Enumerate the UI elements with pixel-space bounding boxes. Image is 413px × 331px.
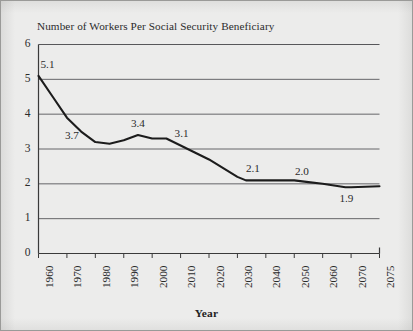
x-tick-label-2075: 2075 xyxy=(384,265,396,287)
x-tick-label-2050: 2050 xyxy=(299,265,311,287)
y-tick-label-5: 5 xyxy=(17,72,31,84)
data-label-3-7: 3.7 xyxy=(65,129,79,141)
data-label-2-0: 2.0 xyxy=(295,165,309,177)
data-label-3-1: 3.1 xyxy=(175,127,189,139)
x-tick-label-2000: 2000 xyxy=(157,265,169,287)
x-tick-label-1970: 1970 xyxy=(71,265,83,287)
y-tick-label-4: 4 xyxy=(17,107,31,119)
y-tick-label-0: 0 xyxy=(17,246,31,258)
x-tick-label-2060: 2060 xyxy=(327,265,339,287)
y-tick-label-2: 2 xyxy=(17,176,31,188)
chart-figure: Number of Workers Per Social Security Be… xyxy=(0,0,413,331)
data-label-3-4: 3.4 xyxy=(131,117,145,129)
x-axis-title: Year xyxy=(1,307,412,319)
x-tick-label-1980: 1980 xyxy=(100,265,112,287)
y-tick-label-3: 3 xyxy=(17,142,31,154)
y-tick-label-6: 6 xyxy=(17,37,31,49)
data-label-1-9: 1.9 xyxy=(339,192,353,204)
data-label-5-1: 5.1 xyxy=(41,58,55,70)
x-tick-label-2020: 2020 xyxy=(214,265,226,287)
x-tick-label-2030: 2030 xyxy=(242,265,254,287)
x-tick-marks xyxy=(39,254,380,259)
x-tick-label-2070: 2070 xyxy=(356,265,368,287)
y-tick-label-1: 1 xyxy=(17,211,31,223)
x-tick-label-1960: 1960 xyxy=(43,265,55,287)
x-tick-label-2040: 2040 xyxy=(270,265,282,287)
x-tick-label-1990: 1990 xyxy=(128,265,140,287)
gridlines xyxy=(39,45,380,219)
x-tick-label-2010: 2010 xyxy=(185,265,197,287)
data-label-2-1: 2.1 xyxy=(246,162,260,174)
plot-area xyxy=(1,1,413,331)
data-series-line xyxy=(39,76,380,187)
